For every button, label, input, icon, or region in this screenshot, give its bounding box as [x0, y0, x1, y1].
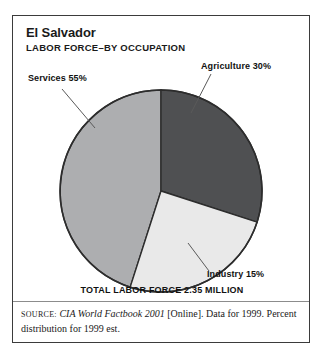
pie-label-services: Services 55%: [28, 73, 87, 83]
pie-chart-svg: [13, 16, 310, 306]
leader-line-services: [62, 89, 95, 128]
figure-panel: El Salvador LABOR FORCE–BY OCCUPATION Se…: [12, 15, 310, 343]
pie-chart: Services 55% Agriculture 30% Industry 15…: [13, 16, 310, 306]
source-divider: [13, 301, 310, 302]
pie-label-industry: Industry 15%: [207, 269, 264, 279]
source-label: SOURCE:: [21, 310, 57, 319]
total-labor-force-caption: TOTAL LABOR FORCE 2.35 MILLION: [13, 285, 310, 295]
pie-label-agriculture: Agriculture 30%: [201, 61, 271, 71]
source-note: SOURCE: CIA World Factbook 2001 [Online]…: [21, 307, 303, 335]
source-publication-title: CIA World Factbook 2001: [59, 308, 164, 319]
